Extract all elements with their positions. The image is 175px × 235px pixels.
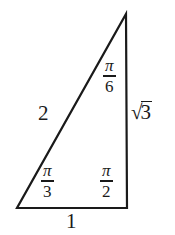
- fraction-pi-over-3: π 3: [41, 162, 54, 200]
- triangle-figure: 2 √3 1 π 6 π 3 π 2: [0, 0, 175, 235]
- fraction-numerator: π: [41, 162, 54, 179]
- side-label-base: 1: [66, 211, 77, 232]
- angle-label-bottom-right: π 2: [100, 162, 113, 200]
- radical-argument: 3: [141, 101, 153, 123]
- fraction-denominator: 6: [103, 78, 116, 95]
- fraction-denominator: 3: [41, 183, 54, 200]
- fraction-denominator: 2: [100, 183, 113, 200]
- fraction-numerator: π: [100, 162, 113, 179]
- angle-label-top: π 6: [103, 57, 116, 95]
- side-label-vertical-leg: √3: [131, 101, 152, 123]
- side-label-hypotenuse: 2: [38, 103, 49, 124]
- fraction-numerator: π: [103, 57, 116, 74]
- fraction-pi-over-2: π 2: [100, 162, 113, 200]
- fraction-pi-over-6: π 6: [103, 57, 116, 95]
- angle-label-bottom-left: π 3: [41, 162, 54, 200]
